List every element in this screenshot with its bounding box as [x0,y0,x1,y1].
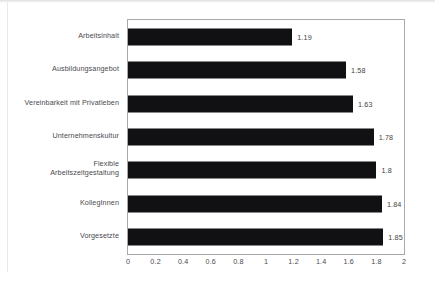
x-tick-label: 1.6 [344,257,354,266]
x-tick-label: 0.2 [150,257,160,266]
category-label: Unternehmenskultur [0,132,119,141]
bar [128,162,376,179]
bar-value-label: 1.8 [381,166,391,175]
x-axis-tick-labels: 00.20.40.60.811.21.41.61.82 [128,257,404,273]
bar-value-label: 1.84 [387,199,402,208]
x-tick-label: 0.6 [206,257,216,266]
x-tick-label: 1 [264,257,268,266]
bar [128,129,374,146]
bar [128,62,346,79]
x-tick-label: 1.8 [371,257,381,266]
x-tick-label: 1.2 [288,257,298,266]
bar-value-label: 1.63 [358,99,373,108]
bar-value-label: 1.85 [388,233,403,242]
bars-layer: 1.191.581.631.781.81.841.85 [128,20,404,254]
category-axis-labels: ArbeitsinhaltAusbildungsangebotVereinbar… [0,19,123,255]
x-tick-label: 0.4 [178,257,188,266]
bar [128,28,292,45]
bar-value-label: 1.58 [351,66,366,75]
x-tick-label: 1.4 [316,257,326,266]
x-tick-label: 2 [402,257,406,266]
category-label: Vereinbarkeit mit Privatleben [0,98,119,107]
bar-value-label: 1.78 [379,133,394,142]
bar [128,229,383,246]
category-label: Flexible Arbeitszeitgestaltung [0,161,119,178]
category-label: Arbeitsinhalt [0,31,119,40]
x-tick-label: 0.8 [233,257,243,266]
x-tick-label: 0 [126,257,130,266]
category-label: Ausbildungsangebot [0,65,119,74]
category-label: Vorgesetzte [0,232,119,241]
scan-artifact-top-band [0,0,435,3]
bar [128,195,382,212]
bar-value-label: 1.19 [297,32,312,41]
bar [128,95,353,112]
category-label: KollegInnen [0,199,119,208]
bar-chart-figure: ArbeitsinhaltAusbildungsangebotVereinbar… [0,0,435,281]
